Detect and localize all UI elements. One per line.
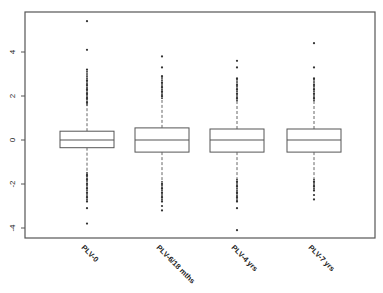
outlier-point	[86, 80, 88, 82]
outlier-point	[86, 76, 88, 78]
outlier-point	[236, 66, 238, 68]
outlier-point	[313, 80, 315, 82]
outlier-point	[161, 66, 163, 68]
outlier-point	[313, 188, 315, 190]
outlier-point	[86, 183, 88, 185]
outlier-point	[236, 189, 238, 191]
outlier-point	[313, 185, 315, 187]
outlier-point	[161, 78, 163, 80]
y-tick-label: 2	[8, 93, 17, 98]
outlier-point	[161, 89, 163, 91]
outlier-point	[313, 82, 315, 84]
outlier-point	[86, 201, 88, 203]
outlier-point	[161, 205, 163, 207]
outlier-point	[86, 72, 88, 74]
outlier-point	[313, 97, 315, 99]
outlier-point	[236, 188, 238, 190]
outlier-point	[313, 190, 315, 192]
box-plot-chart: -4-2024 PLV-0PLV-6/18 mthsPLV-4 yrsPLV-7…	[0, 0, 383, 293]
box-group	[60, 20, 114, 225]
outlier-point	[236, 201, 238, 203]
outlier-point	[86, 199, 88, 201]
outlier-point	[313, 77, 315, 79]
outlier-point	[161, 192, 163, 194]
outlier-point	[313, 194, 315, 196]
outlier-point	[313, 100, 315, 102]
outlier-point	[86, 223, 88, 225]
outlier-point	[161, 91, 163, 93]
outlier-point	[236, 181, 238, 183]
box-group	[287, 42, 341, 200]
outlier-point	[161, 190, 163, 192]
box-series	[60, 20, 341, 231]
x-category-label: PLV-6/18 mths	[155, 243, 197, 285]
outlier-point	[313, 179, 315, 181]
outlier-point	[86, 102, 88, 104]
outlier-point	[236, 91, 238, 93]
outlier-point	[236, 192, 238, 194]
x-category-label: PLV-4 yrs	[230, 243, 260, 273]
outlier-point	[236, 198, 238, 200]
outlier-point	[86, 179, 88, 181]
outlier-point	[161, 183, 163, 185]
outlier-point	[86, 187, 88, 189]
outlier-point	[86, 86, 88, 88]
x-category-label: PLV-7 yrs	[307, 243, 337, 273]
outlier-point	[86, 192, 88, 194]
outlier-point	[86, 181, 88, 183]
outlier-point	[86, 97, 88, 99]
outlier-point	[86, 74, 88, 76]
outlier-point	[86, 70, 88, 72]
outlier-point	[86, 93, 88, 95]
outlier-point	[86, 190, 88, 192]
outlier-point	[313, 181, 315, 183]
outlier-point	[236, 185, 238, 187]
outlier-point	[313, 42, 315, 44]
outlier-point	[86, 49, 88, 51]
outlier-point	[313, 84, 315, 86]
outlier-point	[313, 88, 315, 90]
outlier-point	[236, 77, 238, 79]
outlier-point	[236, 229, 238, 231]
outlier-point	[236, 195, 238, 197]
y-tick-label: 0	[8, 137, 17, 142]
plot-frame	[25, 12, 375, 238]
outlier-point	[236, 93, 238, 95]
y-axis: -4-2024	[8, 49, 25, 231]
outlier-point	[313, 91, 315, 93]
outlier-point	[161, 209, 163, 211]
outlier-point	[161, 86, 163, 88]
outlier-point	[313, 198, 315, 200]
outlier-point	[86, 104, 88, 106]
outlier-point	[161, 187, 163, 189]
outlier-point	[236, 179, 238, 181]
outlier-point	[86, 88, 88, 90]
x-category-label: PLV-0	[80, 243, 101, 264]
outlier-point	[86, 174, 88, 176]
y-tick-label: -2	[8, 180, 17, 188]
outlier-point	[161, 201, 163, 203]
outlier-point	[236, 82, 238, 84]
outlier-point	[236, 97, 238, 99]
box-group	[135, 55, 189, 211]
outlier-point	[236, 196, 238, 198]
outlier-point	[236, 207, 238, 209]
outlier-point	[313, 93, 315, 95]
y-tick-label: 4	[8, 49, 17, 54]
outlier-point	[161, 97, 163, 99]
outlier-point	[86, 95, 88, 97]
outlier-point	[161, 199, 163, 201]
outlier-point	[236, 84, 238, 86]
outlier-point	[86, 69, 88, 71]
y-tick-label: -4	[8, 224, 17, 232]
outlier-point	[86, 20, 88, 22]
outlier-point	[86, 84, 88, 86]
x-axis-labels: PLV-0PLV-6/18 mthsPLV-4 yrsPLV-7 yrs	[80, 243, 337, 285]
outlier-point	[161, 181, 163, 183]
outlier-point	[86, 207, 88, 209]
box-group	[210, 60, 264, 232]
outlier-point	[161, 80, 163, 82]
outlier-point	[236, 60, 238, 62]
outlier-point	[161, 95, 163, 97]
outlier-point	[161, 75, 163, 77]
